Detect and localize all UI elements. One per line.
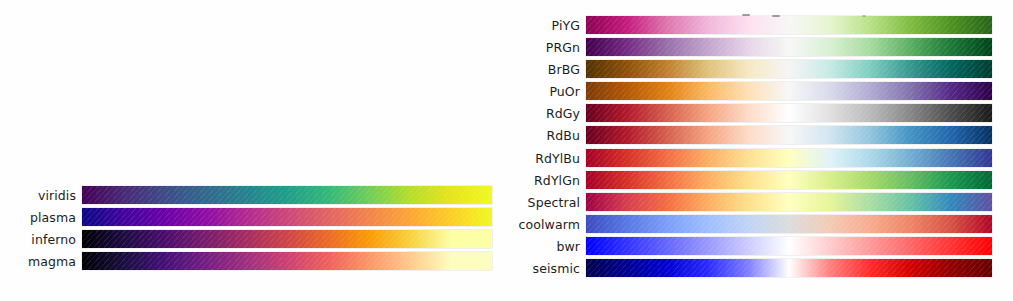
colormap-bar [586,38,992,56]
colormap-bar [82,186,492,204]
colormap-row-seismic: seismic [490,259,1013,277]
colormap-bar [586,126,992,144]
colormap-row-rdylgn: RdYlGn [490,171,1013,189]
sequential-colormap-panel: viridis plasma inferno magma [0,180,495,285]
colormap-row-rdylbu: RdYlBu [490,149,1013,167]
colormap-bar [586,60,992,78]
colormap-label: bwr [490,240,586,253]
colormap-row-puor: PuOr [490,82,1013,100]
colormap-bar [586,193,992,211]
colormap-label: magma [0,255,82,268]
scan-artifact [772,15,780,17]
colormap-label: RdYlBu [490,152,586,165]
colormap-bar [82,252,492,270]
colormap-label: RdGy [490,107,586,120]
colormap-bar [586,82,992,100]
colormap-row-piyg: PiYG [490,16,1013,34]
colormap-label: PRGn [490,41,586,54]
colormap-label: Spectral [490,196,586,209]
colormap-bar [586,104,992,122]
colormap-row-rdgy: RdGy [490,104,1013,122]
colormap-row-viridis: viridis [0,186,495,204]
scan-artifact [862,15,866,17]
colormap-bar [586,149,992,167]
colormap-row-inferno: inferno [0,230,495,248]
diverging-colormap-panel: PiYG PRGn BrBG PuOr RdGy RdBu RdYlBu RdY… [490,10,1013,295]
colormap-label: PuOr [490,85,586,98]
colormap-row-plasma: plasma [0,208,495,226]
colormap-label: seismic [490,262,586,275]
colormap-label: RdYlGn [490,174,586,187]
colormap-row-brbg: BrBG [490,60,1013,78]
colormap-row-rdbu: RdBu [490,126,1013,144]
colormap-row-bwr: bwr [490,237,1013,255]
colormap-bar [586,215,992,233]
colormap-label: BrBG [490,63,586,76]
colormap-row-coolwarm: coolwarm [490,215,1013,233]
colormap-label: PiYG [490,19,586,32]
scan-artifact [742,14,750,16]
colormap-bar [82,230,492,248]
colormap-row-magma: magma [0,252,495,270]
colormap-row-spectral: Spectral [490,193,1013,211]
colormap-row-prgn: PRGn [490,38,1013,56]
colormap-bar [586,16,992,34]
colormap-bar [586,259,992,277]
colormap-label: plasma [0,211,82,224]
colormap-bar [82,208,492,226]
colormap-label: RdBu [490,129,586,142]
colormap-label: inferno [0,233,82,246]
colormap-bar [586,237,992,255]
colormap-label: viridis [0,189,82,202]
colormap-label: coolwarm [490,218,586,231]
colormap-bar [586,171,992,189]
